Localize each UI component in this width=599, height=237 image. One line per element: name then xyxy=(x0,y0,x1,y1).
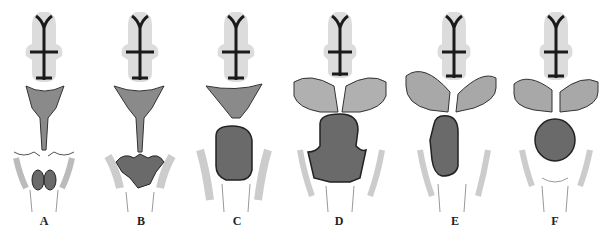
panel-a: A xyxy=(4,0,84,237)
panel-c-illustration xyxy=(196,0,276,237)
panel-label-f: F xyxy=(545,214,565,229)
panel-label-d: D xyxy=(329,214,349,229)
panel-d-illustration xyxy=(290,0,390,237)
panel-e: E xyxy=(402,0,502,237)
panel-label-c: C xyxy=(227,214,247,229)
panel-f-illustration xyxy=(508,0,599,237)
panel-d: D xyxy=(290,0,390,237)
panel-b: B xyxy=(100,0,180,237)
panel-label-b: B xyxy=(131,214,151,229)
panel-c: C xyxy=(196,0,276,237)
panel-b-illustration xyxy=(100,0,180,237)
panel-label-e: E xyxy=(445,214,465,229)
panel-label-a: A xyxy=(34,214,54,229)
panel-a-illustration xyxy=(4,0,84,237)
panel-f: F xyxy=(508,0,599,237)
panel-e-illustration xyxy=(402,0,502,237)
